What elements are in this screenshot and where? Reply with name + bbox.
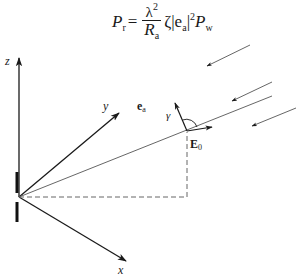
- incoming-wave-arrow-1: [207, 45, 250, 66]
- e0-vector-label: E0: [190, 138, 202, 154]
- y-axis-arrow: [19, 113, 119, 197]
- ea-vector-arrow: [175, 103, 187, 131]
- gamma-angle-label: γ: [166, 109, 170, 121]
- x-axis-label: x: [118, 264, 123, 276]
- e0-vector-arrow: [187, 127, 212, 131]
- z-axis-label: z: [5, 55, 10, 67]
- x-axis-arrow: [19, 197, 126, 261]
- y-axis-label: y: [103, 100, 108, 112]
- antenna-geometry-diagram: [0, 0, 302, 277]
- incoming-wave-arrow-3: [252, 108, 296, 126]
- ea-vector-label: ea: [137, 100, 146, 116]
